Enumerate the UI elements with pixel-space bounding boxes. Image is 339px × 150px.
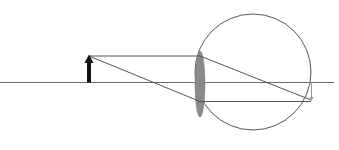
eyeball-outline — [195, 14, 311, 130]
diagram-canvas — [0, 0, 339, 150]
lens-shape — [195, 51, 205, 117]
object-arrow-icon — [85, 55, 94, 83]
eye-ray-diagram: optical axis object (upright arrow) eyeb… — [0, 0, 339, 150]
